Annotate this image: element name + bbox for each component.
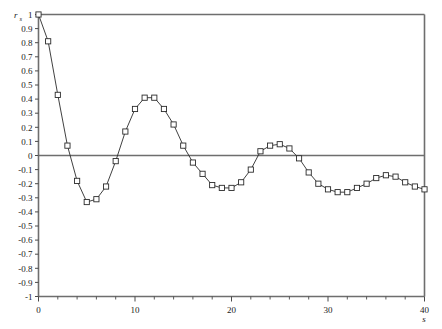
data-point-marker: [354, 185, 359, 190]
y-tick-label: -0.5: [18, 221, 33, 231]
data-point-marker: [84, 199, 89, 204]
y-tick-label: 0.1: [21, 137, 32, 147]
y-tick-label: -0.8: [18, 264, 33, 274]
y-tick-label: -0.6: [18, 235, 33, 245]
x-tick-label: 30: [324, 305, 334, 315]
y-axis-label: r: [14, 10, 18, 20]
data-point-marker: [210, 183, 215, 188]
data-point-marker: [46, 39, 51, 44]
y-tick-label: -0.4: [18, 207, 33, 217]
x-axis-label: s: [422, 314, 426, 324]
data-point-marker: [306, 170, 311, 175]
y-tick-label: 0.3: [21, 108, 33, 118]
y-tick-label: 0.6: [21, 66, 33, 76]
chart-container: 10.90.80.70.60.50.40.30.20.10-0.1-0.2-0.…: [0, 0, 442, 329]
data-point-marker: [393, 174, 398, 179]
data-point-marker: [268, 143, 273, 148]
x-tick-label: 0: [36, 305, 41, 315]
y-tick-label: 0.2: [21, 123, 32, 133]
data-point-marker: [258, 149, 263, 154]
data-point-marker: [239, 180, 244, 185]
y-tick-label: -0.7: [18, 249, 33, 259]
data-point-marker: [103, 184, 108, 189]
y-tick-label: -0.9: [18, 278, 33, 288]
data-point-marker: [277, 142, 282, 147]
data-point-marker: [345, 190, 350, 195]
y-tick-label: 0.9: [21, 24, 33, 34]
data-point-marker: [316, 181, 321, 186]
data-point-marker: [171, 122, 176, 127]
data-point-marker: [287, 146, 292, 151]
series-markers: [36, 12, 427, 205]
data-point-marker: [142, 95, 147, 100]
x-axis-tick-labels: 010203040: [36, 305, 429, 315]
y-tick-label: 0.5: [21, 80, 33, 90]
data-point-marker: [296, 156, 301, 161]
data-point-marker: [335, 190, 340, 195]
data-point-marker: [123, 129, 128, 134]
y-tick-label: -0.1: [18, 165, 32, 175]
y-tick-label: 0: [28, 151, 33, 161]
x-axis-ticks: [39, 297, 425, 302]
data-point-marker: [219, 185, 224, 190]
data-point-marker: [412, 184, 417, 189]
autocorrelation-plot: 10.90.80.70.60.50.40.30.20.10-0.1-0.2-0.…: [0, 0, 442, 329]
data-point-marker: [229, 185, 234, 190]
data-point-marker: [161, 106, 166, 111]
data-point-marker: [152, 95, 157, 100]
y-axis-tick-labels: 10.90.80.70.60.50.40.30.20.10-0.1-0.2-0.…: [18, 10, 33, 302]
data-point-marker: [75, 178, 80, 183]
y-axis-label-subscript: s: [20, 15, 23, 22]
data-point-marker: [364, 181, 369, 186]
series-line: [39, 15, 425, 203]
data-point-marker: [55, 92, 60, 97]
data-point-marker: [403, 180, 408, 185]
data-point-marker: [132, 106, 137, 111]
data-point-marker: [200, 171, 205, 176]
x-tick-label: 40: [420, 305, 430, 315]
y-axis-ticks: [35, 15, 39, 297]
data-point-marker: [325, 187, 330, 192]
y-tick-label: 0.7: [21, 52, 33, 62]
y-tick-label: -0.3: [18, 193, 33, 203]
y-tick-label: -1: [25, 292, 33, 302]
data-point-marker: [190, 160, 195, 165]
x-tick-label: 10: [131, 305, 141, 315]
data-point-marker: [248, 167, 253, 172]
x-tick-label: 20: [227, 305, 237, 315]
data-point-marker: [422, 187, 427, 192]
y-tick-label: 0.8: [21, 38, 33, 48]
y-tick-label: 1: [28, 10, 33, 20]
data-point-marker: [36, 12, 41, 17]
data-point-marker: [383, 173, 388, 178]
y-tick-label: -0.2: [18, 179, 32, 189]
data-point-marker: [113, 159, 118, 164]
data-point-marker: [374, 175, 379, 180]
data-point-marker: [181, 143, 186, 148]
data-point-marker: [94, 197, 99, 202]
data-point-marker: [65, 143, 70, 148]
y-tick-label: 0.4: [21, 94, 33, 104]
